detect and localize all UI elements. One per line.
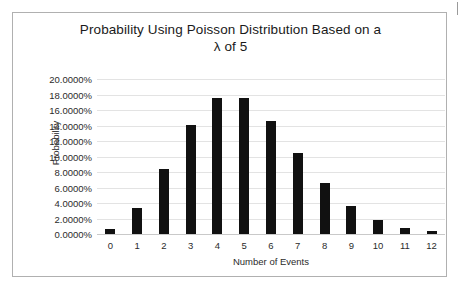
bar bbox=[293, 153, 303, 234]
x-axis-tick-label: 8 bbox=[322, 240, 327, 251]
y-axis-tick-label: 16.0000% bbox=[49, 105, 92, 116]
axis-baseline bbox=[97, 234, 445, 235]
gridline bbox=[97, 79, 445, 80]
y-axis-tick-label: 20.0000% bbox=[49, 74, 92, 85]
x-axis-tick-label: 2 bbox=[161, 240, 166, 251]
chart-title: Probability Using Poisson Distribution B… bbox=[31, 21, 430, 55]
y-axis-tick-label: 6.0000% bbox=[54, 182, 92, 193]
x-axis-tick-label: 11 bbox=[400, 240, 410, 251]
x-axis-tick-label: 9 bbox=[349, 240, 354, 251]
x-axis-tick-label: 1 bbox=[134, 240, 139, 251]
bar bbox=[346, 206, 356, 234]
corner-tick-mark bbox=[457, 2, 458, 15]
bar bbox=[132, 208, 142, 234]
y-axis-tick-label: 0.0000% bbox=[54, 229, 92, 240]
bar bbox=[427, 231, 437, 234]
gridline bbox=[97, 95, 445, 96]
y-axis-tick-label: 8.0000% bbox=[54, 167, 92, 178]
y-axis-tick-label: 2.0000% bbox=[54, 213, 92, 224]
chart-title-line-1: Probability Using Poisson Distribution B… bbox=[80, 22, 381, 37]
bar bbox=[159, 169, 169, 234]
chart-title-line-2: λ of 5 bbox=[31, 38, 430, 55]
bar bbox=[400, 228, 410, 234]
bar bbox=[105, 229, 115, 234]
y-axis-tick-label: 4.0000% bbox=[54, 198, 92, 209]
x-axis-tick-label: 12 bbox=[426, 240, 437, 251]
bar bbox=[373, 220, 383, 234]
bar bbox=[186, 125, 196, 234]
plot-area: 0.0000%2.0000%4.0000%6.0000%8.0000%10.00… bbox=[97, 79, 445, 234]
chart-frame: Probability Using Poisson Distribution B… bbox=[12, 12, 447, 277]
x-axis-tick-label: 4 bbox=[215, 240, 220, 251]
x-axis-tick-label: 7 bbox=[295, 240, 300, 251]
x-axis-tick-label: 5 bbox=[242, 240, 247, 251]
bar bbox=[212, 98, 222, 234]
y-axis-tick-label: 10.0000% bbox=[49, 151, 92, 162]
x-axis-tick-label: 6 bbox=[268, 240, 273, 251]
bar bbox=[239, 98, 249, 234]
x-axis-title: Number of Events bbox=[97, 256, 445, 267]
x-axis-tick-label: 0 bbox=[108, 240, 113, 251]
y-axis-tick-label: 12.0000% bbox=[49, 136, 92, 147]
y-axis-tick-label: 18.0000% bbox=[49, 89, 92, 100]
x-axis-tick-label: 10 bbox=[373, 240, 384, 251]
gridline bbox=[97, 110, 445, 111]
bar bbox=[266, 121, 276, 234]
y-axis-tick-label: 14.0000% bbox=[49, 120, 92, 131]
bar bbox=[320, 183, 330, 234]
x-axis-tick-label: 3 bbox=[188, 240, 193, 251]
